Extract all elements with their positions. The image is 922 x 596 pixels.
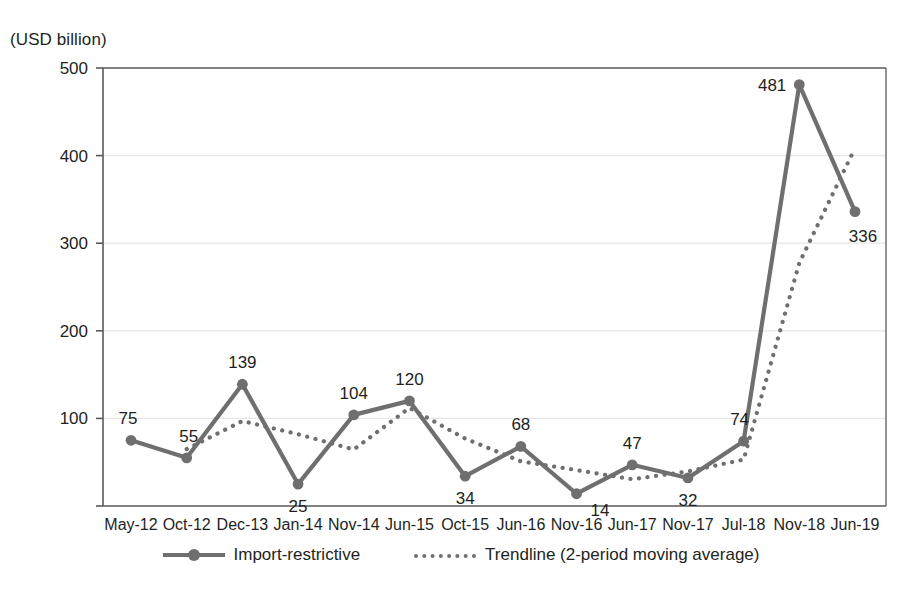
- x-axis-tick-label: Nov-17: [662, 516, 714, 533]
- data-point-label: 25: [289, 497, 308, 516]
- x-axis-tick-label: Jun-15: [385, 516, 434, 533]
- y-axis-tick-label: 100: [60, 409, 88, 428]
- y-axis-ticks: [96, 68, 103, 506]
- data-point-marker: [404, 395, 415, 406]
- import-restrictive-path: [131, 85, 855, 494]
- x-axis-tick-label: Jan-14: [274, 516, 323, 533]
- data-point-label: 120: [395, 370, 423, 389]
- chart-container: (USD billion) 100200300400500 7555139251…: [0, 0, 922, 596]
- x-axis-tick-label: Jun-19: [831, 516, 880, 533]
- data-point-marker: [738, 436, 749, 447]
- y-axis-tick-labels: 100200300400500: [60, 59, 88, 428]
- chart-plot-area: 100200300400500 755513925104120346814473…: [0, 0, 922, 545]
- x-axis-tick-label: Oct-15: [441, 516, 489, 533]
- data-point-marker: [515, 441, 526, 452]
- data-point-marker: [126, 435, 137, 446]
- data-point-marker: [850, 206, 861, 217]
- data-point-marker: [627, 459, 638, 470]
- legend-item-import-restrictive: Import-restrictive: [163, 545, 361, 565]
- legend-dotted-line-icon: [414, 547, 476, 563]
- y-axis-tick-label: 300: [60, 234, 88, 253]
- x-axis-tick-label: Dec-13: [217, 516, 269, 533]
- y-axis-tick-label: 500: [60, 59, 88, 78]
- data-point-label: 481: [758, 76, 786, 95]
- data-point-labels: 755513925104120346814473274481336: [119, 76, 878, 520]
- data-point-label: 336: [849, 227, 877, 246]
- data-point-marker: [571, 488, 582, 499]
- data-point-marker: [293, 479, 304, 490]
- data-point-marker: [460, 471, 471, 482]
- data-point-marker: [348, 409, 359, 420]
- data-point-marker: [794, 79, 805, 90]
- data-point-label: 104: [340, 384, 368, 403]
- x-axis-tick-label: Nov-16: [551, 516, 603, 533]
- y-axis-tick-label: 200: [60, 322, 88, 341]
- chart-legend: Import-restrictive Trendline (2-period m…: [0, 545, 922, 565]
- data-point-label: 55: [179, 427, 198, 446]
- y-axis-tick-label: 400: [60, 147, 88, 166]
- x-axis-tick-label: Jul-18: [722, 516, 766, 533]
- legend-line-marker-icon: [163, 547, 225, 563]
- x-axis-tick-label: Jun-17: [608, 516, 657, 533]
- legend-label-import-restrictive: Import-restrictive: [234, 545, 361, 565]
- x-axis-tick-labels: May-12Oct-12Dec-13Jan-14Nov-14Jun-15Oct-…: [104, 516, 879, 533]
- x-axis-tick-label: Nov-14: [328, 516, 380, 533]
- data-point-label: 68: [511, 415, 530, 434]
- x-axis-tick-label: Nov-18: [774, 516, 826, 533]
- x-axis-tick-label: Oct-12: [163, 516, 211, 533]
- x-axis-tick-label: Jun-16: [496, 516, 545, 533]
- data-point-label: 34: [456, 489, 475, 508]
- data-point-label: 139: [228, 353, 256, 372]
- data-point-label: 32: [678, 491, 697, 510]
- data-point-marker: [237, 379, 248, 390]
- data-point-label: 74: [730, 410, 749, 429]
- data-point-marker: [181, 452, 192, 463]
- x-axis-tick-label: May-12: [104, 516, 157, 533]
- data-point-label: 75: [119, 409, 138, 428]
- data-point-marker: [683, 473, 694, 484]
- data-point-label: 47: [623, 434, 642, 453]
- series-import-restrictive: [131, 85, 855, 494]
- legend-label-trendline: Trendline (2-period moving average): [485, 545, 759, 565]
- legend-item-trendline: Trendline (2-period moving average): [414, 545, 759, 565]
